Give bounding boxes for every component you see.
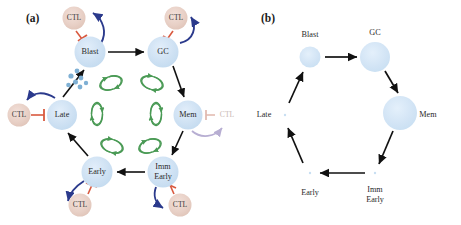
panel-a: (a) bbox=[8, 7, 235, 217]
loop-early-late bbox=[99, 136, 125, 155]
arrow-mem-to-imm-early bbox=[172, 131, 183, 155]
arrow-mem-activates-ctl-faded bbox=[192, 128, 222, 136]
figure-root: (a) bbox=[0, 0, 461, 225]
node-blast[interactable]: Blast bbox=[75, 37, 106, 68]
loop-imm-early-early bbox=[137, 136, 163, 155]
node-gc[interactable]: GC bbox=[148, 37, 179, 68]
node-b-early-label: Early bbox=[301, 188, 320, 197]
arrow-b-mem-to-imm-early bbox=[379, 131, 393, 164]
panel-a-label: (a) bbox=[26, 12, 40, 25]
node-mem[interactable]: Mem bbox=[174, 101, 203, 130]
loop-blast-gc bbox=[98, 73, 124, 92]
node-b-imm-early-label2: Early bbox=[366, 195, 385, 204]
ctl-node-imm-early-label: CTL bbox=[173, 200, 188, 209]
node-b-mem-label: Mem bbox=[419, 110, 437, 119]
ctl-node-early-label: CTL bbox=[73, 200, 88, 209]
arrow-imm-early-activates-ctl bbox=[155, 187, 163, 208]
panel-a-state-nodes: Blast GC Mem Imm Early Early bbox=[47, 37, 203, 188]
ctl-node-late-label: CTL bbox=[12, 110, 27, 119]
arrow-late-activates-ctl bbox=[27, 93, 55, 100]
panel-b: (b) Blast GC Me bbox=[257, 12, 438, 204]
figure-svg: (a) bbox=[0, 0, 461, 225]
ctl-node-mem-label: CTL bbox=[220, 110, 235, 119]
panel-b-cycle-arrows bbox=[288, 57, 398, 173]
node-imm-early-label: Imm bbox=[155, 162, 171, 171]
node-b-imm-early-label: Imm bbox=[367, 185, 383, 194]
node-b-imm-early[interactable]: Imm Early bbox=[366, 172, 385, 204]
loop-late-blast bbox=[91, 102, 102, 125]
loop-mem-imm-early bbox=[150, 102, 161, 125]
arrow-b-early-to-late bbox=[288, 128, 303, 163]
loop-gc-mem bbox=[139, 73, 165, 92]
node-b-late-label: Late bbox=[257, 110, 272, 119]
panel-a-green-loops bbox=[91, 73, 164, 155]
node-gc-label: GC bbox=[157, 47, 169, 56]
ctl-node-early[interactable]: CTL bbox=[69, 194, 92, 217]
node-b-late[interactable]: Late bbox=[257, 110, 286, 119]
panel-b-label: (b) bbox=[261, 12, 275, 25]
arrow-b-gc-to-mem bbox=[385, 71, 398, 93]
ctl-node-blast[interactable]: CTL bbox=[63, 7, 86, 30]
panel-b-state-nodes: Blast GC Mem Imm Early Early bbox=[257, 28, 438, 204]
inhibit-ctl-mem-faded bbox=[206, 110, 215, 120]
ctl-node-mem-faded[interactable]: CTL bbox=[220, 110, 235, 119]
node-late-label: Late bbox=[55, 110, 70, 119]
node-imm-early-label2: Early bbox=[154, 172, 173, 181]
node-mem-label: Mem bbox=[179, 110, 197, 119]
arrow-early-to-late bbox=[68, 133, 88, 156]
node-b-blast-label: Blast bbox=[302, 30, 320, 39]
node-imm-early[interactable]: Imm Early bbox=[148, 157, 179, 188]
node-b-gc-label: GC bbox=[369, 28, 381, 37]
node-early-label: Early bbox=[88, 167, 107, 176]
ctl-node-imm-early[interactable]: CTL bbox=[169, 194, 192, 217]
node-b-gc[interactable]: GC bbox=[360, 28, 390, 72]
inhibit-ctl-late bbox=[31, 109, 44, 121]
arrow-gc-to-mem bbox=[173, 66, 184, 97]
panel-a-cycle-arrows bbox=[63, 52, 184, 172]
ctl-node-late[interactable]: CTL bbox=[8, 104, 31, 127]
node-b-blast[interactable]: Blast bbox=[300, 30, 321, 68]
node-b-mem[interactable]: Mem bbox=[383, 96, 437, 130]
node-late[interactable]: Late bbox=[47, 100, 77, 130]
ctl-node-blast-label: CTL bbox=[67, 13, 82, 22]
ctl-node-gc[interactable]: CTL bbox=[165, 7, 188, 30]
node-b-early[interactable]: Early bbox=[301, 172, 320, 197]
arrow-b-late-to-blast bbox=[289, 72, 303, 103]
ctl-node-gc-label: CTL bbox=[169, 13, 184, 22]
node-blast-label: Blast bbox=[82, 47, 100, 56]
node-early[interactable]: Early bbox=[82, 157, 113, 188]
